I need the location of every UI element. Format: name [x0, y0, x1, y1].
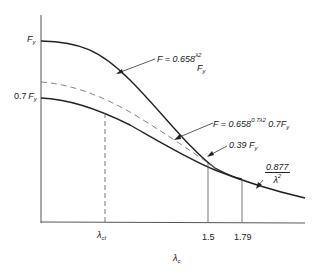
x-axis-label: λc: [173, 253, 180, 264]
x-tick-1-5: 1.5: [202, 232, 215, 242]
diagram-canvas: [0, 0, 319, 277]
point-label-039fy: 0.39 Fy: [229, 140, 258, 151]
x-tick-lambda-ct: λct: [97, 230, 106, 241]
lower-curve-formula: F = 0.6580.7λ2 0.7Fy: [213, 117, 289, 130]
euler-denominator: λ2: [265, 173, 290, 185]
upper-curve-formula: F = 0.658λ2: [157, 52, 201, 64]
y-tick-07fy: 0.7 Fy: [14, 91, 37, 102]
leader-upper: [118, 59, 155, 73]
upper-curve: [41, 41, 242, 179]
leader-lower: [177, 123, 213, 138]
euler-fraction: 0.877 λ2: [265, 162, 290, 185]
upper-curve-formula-fy: Fy: [197, 63, 206, 74]
x-tick-1-79: 1.79: [234, 232, 252, 242]
dashed-curve: [41, 82, 215, 168]
x-axis: [41, 222, 305, 223]
euler-numerator: 0.877: [265, 162, 290, 173]
arrowhead-point: [207, 151, 214, 157]
arrowhead-lower: [174, 134, 181, 140]
y-tick-fy: Fy: [27, 34, 36, 45]
